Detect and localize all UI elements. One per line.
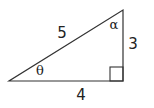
base-label: 4 (76, 86, 86, 104)
height-label: 3 (128, 35, 138, 53)
triangle-diagram: 5 4 3 θ α (0, 0, 154, 108)
angle-alpha-label: α (110, 17, 119, 32)
angle-theta-label: θ (36, 63, 44, 78)
hypotenuse-label: 5 (57, 24, 67, 42)
right-angle-marker (110, 67, 123, 81)
triangle (9, 10, 123, 81)
triangle-outline (9, 10, 123, 81)
